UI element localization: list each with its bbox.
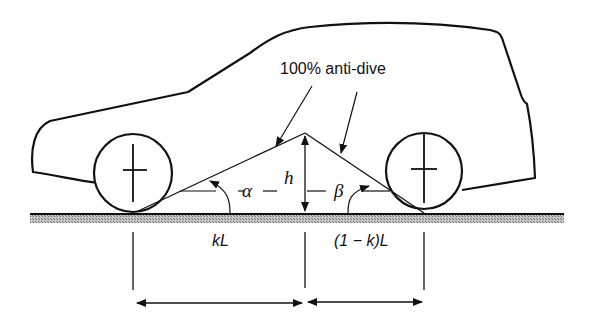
alpha-label: α (242, 180, 253, 201)
anti-dive-label: 100% anti-dive (280, 60, 386, 77)
rear-wheel (386, 133, 462, 209)
label-pointer-rear (341, 92, 357, 153)
beta-angle-arc (348, 186, 369, 213)
rear-distance-label: (1 − k)L (334, 232, 389, 249)
anti-dive-diagram: 100% anti-dive h α β kL (1 − k)L (0, 0, 592, 322)
label-pointer-front (276, 86, 312, 146)
ground (30, 214, 564, 223)
beta-label: β (333, 180, 344, 201)
front-distance-label: kL (212, 232, 229, 249)
alpha-angle-arc (210, 181, 230, 213)
height-label: h (284, 167, 294, 188)
